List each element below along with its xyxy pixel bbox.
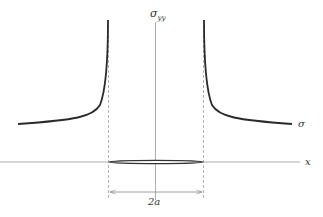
right-stress-curve xyxy=(204,20,292,124)
sigma-yy-label: σyy xyxy=(150,7,166,22)
stress-diagram: σyy σ x 2a xyxy=(0,0,323,217)
crack-length-label: 2a xyxy=(147,196,160,207)
x-axis-label: x xyxy=(305,156,311,167)
left-stress-curve xyxy=(18,20,108,124)
sigma-label: σ xyxy=(298,118,306,129)
crack-ellipse xyxy=(109,160,203,163)
